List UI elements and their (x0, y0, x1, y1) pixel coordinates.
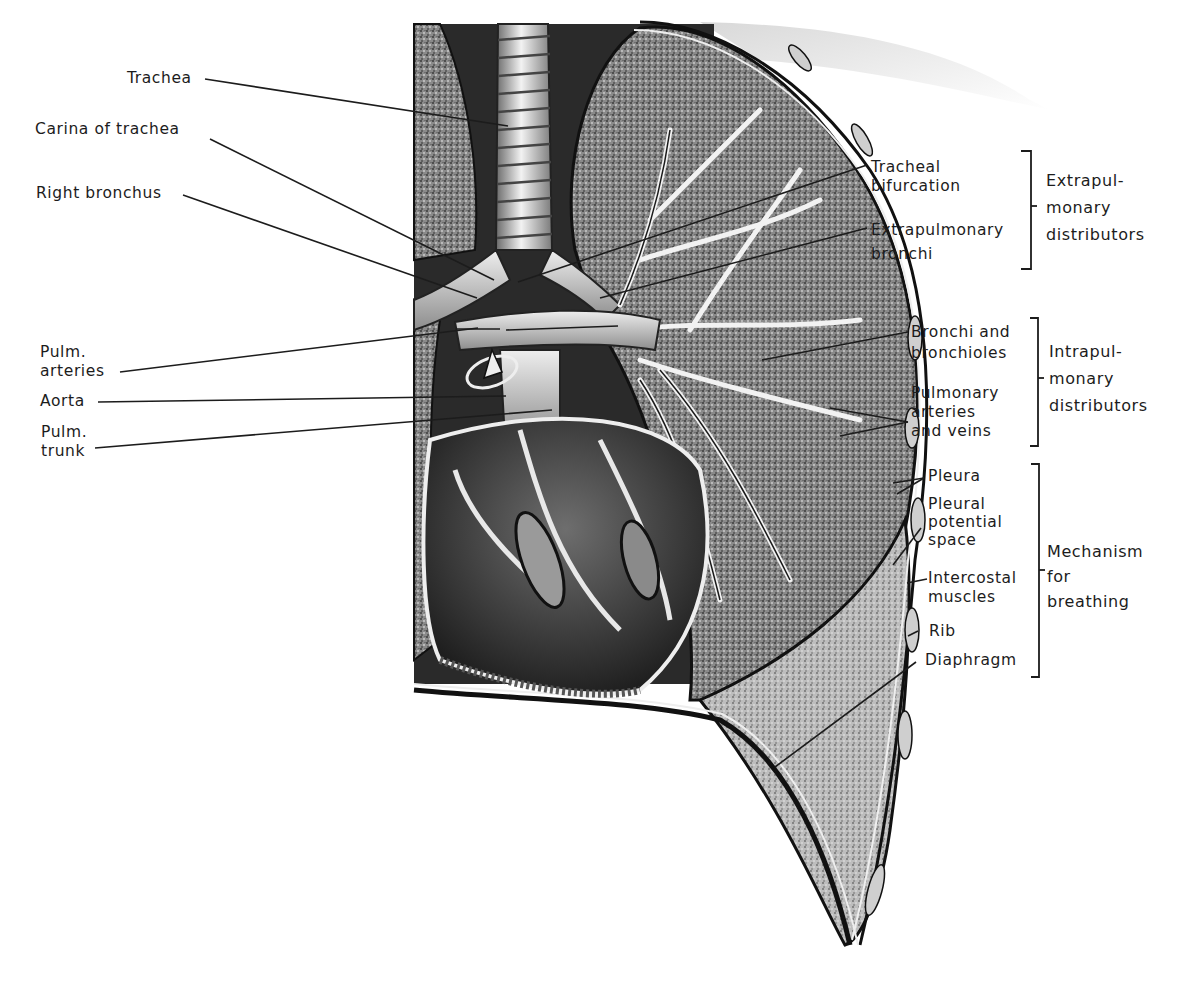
lung-heart-illustration (0, 0, 1184, 986)
label-intercostal-muscles: Intercostal muscles (928, 569, 1017, 607)
label-pulm-trunk: Pulm. trunk (41, 423, 87, 461)
anatomy-figure: Trachea Carina of trachea Right bronchus… (0, 0, 1184, 986)
group-intrapulmonary-distributors: Intrapul- monary distributors (1049, 338, 1148, 419)
label-carina-of-trachea: Carina of trachea (35, 120, 180, 139)
label-extrapulmonary-bronchi: Extrapulmonary bronchi (871, 218, 1004, 266)
label-rib: Rib (929, 622, 956, 641)
label-pulmonary-arteries-and-veins: Pulmonary arteries and veins (911, 384, 999, 441)
group-extrapulmonary-distributors: Extrapul- monary distributors (1046, 167, 1145, 248)
label-tracheal-bifurcation: Tracheal bifurcation (871, 158, 961, 196)
label-pleura: Pleura (928, 467, 980, 486)
label-pulm-arteries: Pulm. arteries (40, 343, 105, 381)
label-aorta: Aorta (40, 392, 85, 411)
label-bronchi-and-bronchioles: Bronchi and bronchioles (911, 322, 1010, 364)
label-pleural-potential-space: Pleural potential space (928, 495, 1002, 549)
label-right-bronchus: Right bronchus (36, 184, 162, 203)
label-trachea: Trachea (127, 69, 192, 88)
group-mechanism-for-breathing: Mechanism for breathing (1047, 539, 1143, 614)
label-diaphragm: Diaphragm (925, 651, 1017, 670)
